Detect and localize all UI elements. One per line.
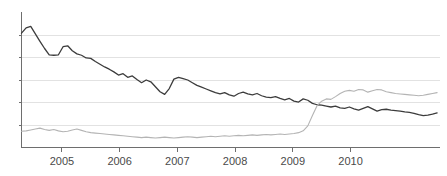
x-tick-label-2005: 2005	[50, 155, 74, 167]
x-axis-tick-labels: 200520062007200820092010	[50, 155, 363, 167]
y-axis	[19, 12, 22, 148]
series-light	[22, 89, 438, 138]
series-paths	[22, 26, 438, 138]
x-tick-label-2006: 2006	[107, 155, 131, 167]
line-chart: 200520062007200820092010	[0, 0, 447, 176]
x-axis-ticks	[62, 148, 351, 152]
x-tick-label-2007: 2007	[165, 155, 189, 167]
x-tick-label-2010: 2010	[338, 155, 362, 167]
chart-canvas: 200520062007200820092010	[0, 0, 447, 176]
x-tick-label-2008: 2008	[223, 155, 247, 167]
x-tick-label-2009: 2009	[281, 155, 305, 167]
